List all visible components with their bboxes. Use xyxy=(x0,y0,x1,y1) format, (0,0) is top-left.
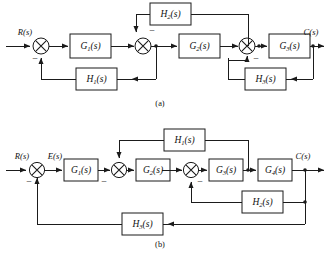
a-sum1-minus-sign: − xyxy=(32,53,38,64)
b-sum2-minus-sign: − xyxy=(101,176,107,187)
b-block-h2-label: H2(s) xyxy=(251,197,272,208)
diagram-b: R(s) − E(s) G1(s) − G2(s) xyxy=(6,129,324,249)
a-summing-junction-2 xyxy=(135,38,151,54)
a-block-h3-label: H3(s) xyxy=(254,74,275,85)
label-b-error: E(s) xyxy=(47,151,62,161)
b-sum3-minus-sign: − xyxy=(197,176,203,187)
wire-b-h3-out xyxy=(37,178,122,224)
a-block-h3: H3(s) xyxy=(245,68,286,90)
b-block-g1: G1(s) xyxy=(64,159,98,181)
a-block-h2-label: H2(s) xyxy=(159,9,180,20)
b-summing-junction-2 xyxy=(111,162,126,177)
wire-a-h3-out-leg xyxy=(228,58,245,79)
b-block-g2-label: G2(s) xyxy=(143,165,163,176)
caption-b: (b) xyxy=(155,240,165,249)
b-block-g3-label: G3(s) xyxy=(216,165,236,176)
a-block-h1: H1(s) xyxy=(76,68,117,90)
a-block-g1: G1(s) xyxy=(70,34,111,58)
b-block-g4-label: G4(s) xyxy=(265,165,285,176)
b-block-h3: H3(s) xyxy=(122,213,163,235)
wire-b-h1-out xyxy=(119,140,164,158)
a-summing-junction-1 xyxy=(33,38,49,54)
wire-a-h3-out xyxy=(228,56,247,60)
a-branch-dot-after-sum3 xyxy=(257,44,261,48)
label-b-output: C(s) xyxy=(296,151,311,161)
b-block-h1: H1(s) xyxy=(164,129,205,151)
b-block-g3: G3(s) xyxy=(209,159,243,181)
wire-a-h2-out xyxy=(136,14,150,32)
b-block-h1-label: H1(s) xyxy=(173,135,194,146)
a-block-g1-label: G1(s) xyxy=(80,41,100,52)
diagram-a: R(s) − G1(s) − G2(s) xyxy=(6,3,324,108)
a-block-h2: H2(s) xyxy=(150,3,191,25)
label-a-output: C(s) xyxy=(304,27,319,37)
wire-a-h1-out xyxy=(41,58,76,79)
a-block-g2: G2(s) xyxy=(179,34,220,58)
a-summing-junction-3 xyxy=(239,38,255,54)
b-block-g1-label: G1(s) xyxy=(71,165,91,176)
a-block-h1-label: H1(s) xyxy=(85,74,106,85)
b-block-h2: H2(s) xyxy=(242,191,283,213)
a-block-g2-label: G2(s) xyxy=(189,41,209,52)
block-diagram-figure: R(s) − G1(s) − G2(s) xyxy=(0,0,328,257)
b-sum1-minus-sign: − xyxy=(26,176,32,187)
a-sum3-minus-sign: − xyxy=(253,53,259,64)
label-b-input: R(s) xyxy=(14,151,29,161)
caption-a: (a) xyxy=(155,99,165,108)
b-block-h3-label: H3(s) xyxy=(131,219,152,230)
a-sum2-minus-sign: − xyxy=(149,25,155,36)
a-block-g3-label: G3(s) xyxy=(279,41,299,52)
a-block-g3: G3(s) xyxy=(269,34,310,58)
b-block-g4: G4(s) xyxy=(258,159,292,181)
label-a-input: R(s) xyxy=(17,27,32,37)
